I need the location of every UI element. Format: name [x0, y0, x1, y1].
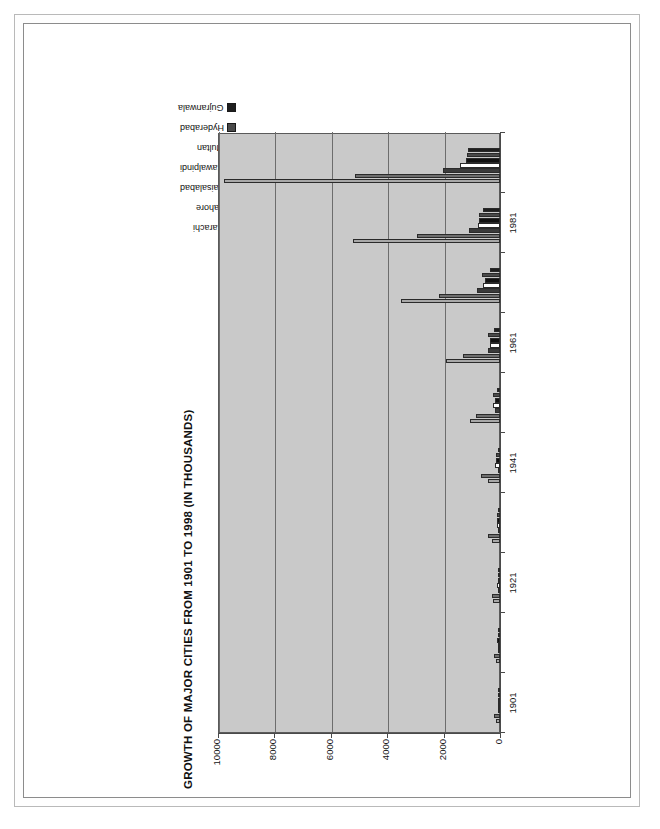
bar: [443, 168, 500, 173]
bar: [488, 534, 500, 539]
bar: [479, 213, 500, 218]
bars-layer: [218, 133, 500, 733]
legend-swatch: [227, 104, 236, 113]
category-axis-tick: [500, 132, 505, 133]
value-axis-tick-label: 4000: [380, 739, 391, 779]
legend-item-label: Hyderabad: [180, 123, 224, 133]
category-axis-tick: [500, 252, 505, 253]
bar: [493, 599, 500, 604]
category-axis-tick-label: 1981: [507, 207, 518, 239]
category-axis-tick-label: 1961: [507, 327, 518, 359]
bar: [355, 174, 500, 179]
bar: [353, 239, 500, 244]
bar: [439, 294, 500, 299]
value-axis-tick-label: 8000: [267, 739, 278, 779]
value-axis-tick-label: 0: [493, 739, 504, 779]
category-axis-tick: [500, 552, 505, 553]
page-border-inner: GROWTH OF MAJOR CITIES FROM 1901 TO 1998…: [23, 23, 631, 798]
bar: [460, 163, 500, 168]
year-group: [218, 495, 500, 543]
category-axis-tick: [500, 492, 505, 493]
bar: [482, 273, 500, 278]
bar: [468, 148, 500, 153]
category-axis-tick: [500, 432, 505, 433]
bar: [467, 153, 500, 158]
bar: [488, 348, 500, 353]
category-axis-tick: [500, 312, 505, 313]
bar: [466, 158, 500, 163]
value-axis-tick-label: 10000: [211, 739, 222, 779]
category-axis-tick: [500, 372, 505, 373]
bar: [446, 359, 500, 364]
legend-item-label: Faisalabad: [180, 183, 224, 193]
value-axis-tick-label: 2000: [437, 739, 448, 779]
bar: [490, 268, 500, 273]
year-group: [218, 135, 500, 183]
value-axis-tick: [274, 733, 275, 738]
bar: [492, 539, 500, 544]
bar: [476, 414, 500, 419]
legend-swatch: [227, 124, 236, 133]
category-axis-tick-label: 1921: [507, 567, 518, 599]
value-axis-tick-label: 6000: [324, 739, 335, 779]
bar: [490, 338, 500, 343]
bar: [477, 288, 500, 293]
bar: [483, 208, 500, 213]
legend-item-label: Gujranwala: [178, 103, 224, 113]
year-group: [218, 315, 500, 363]
value-axis-line: [218, 733, 501, 734]
category-axis-tick: [500, 732, 505, 733]
bar: [479, 218, 500, 223]
value-axis-tick: [444, 733, 445, 738]
year-group: [218, 195, 500, 243]
year-group: [218, 555, 500, 603]
value-axis-tick: [387, 733, 388, 738]
bar: [493, 393, 500, 398]
legend-item: Hyderabad: [180, 123, 236, 133]
bar: [492, 594, 500, 599]
category-axis-tick-label: 1901: [507, 687, 518, 719]
value-axis-tick: [218, 733, 219, 738]
category-axis-tick: [500, 612, 505, 613]
bar: [490, 343, 500, 348]
bar: [483, 283, 500, 288]
bar: [478, 223, 500, 228]
chart-canvas: GROWTH OF MAJOR CITIES FROM 1901 TO 1998…: [174, 89, 534, 789]
bar: [493, 403, 500, 408]
bar: [401, 299, 500, 304]
bar: [485, 278, 500, 283]
year-group: [218, 675, 500, 723]
category-axis-tick: [500, 672, 505, 673]
value-axis-tick: [331, 733, 332, 738]
legend-item-label: Rawalpindi: [180, 163, 224, 173]
bar: [488, 479, 500, 484]
bar: [481, 474, 500, 479]
value-axis-tick: [500, 733, 501, 738]
bar: [470, 419, 500, 424]
year-group: [218, 435, 500, 483]
page-border-outer: GROWTH OF MAJOR CITIES FROM 1901 TO 1998…: [14, 14, 640, 807]
bar: [469, 228, 500, 233]
plot-wrapper: 1000080006000400020000190119211941196119…: [218, 133, 500, 733]
bar: [463, 354, 500, 359]
bar: [417, 234, 500, 239]
year-group: [218, 255, 500, 303]
year-group: [218, 615, 500, 663]
bar: [488, 333, 500, 338]
year-group: [218, 375, 500, 423]
category-axis-tick: [500, 192, 505, 193]
bar: [224, 179, 500, 184]
legend-item: Gujranwala: [178, 103, 236, 113]
category-axis-tick-label: 1941: [507, 447, 518, 479]
